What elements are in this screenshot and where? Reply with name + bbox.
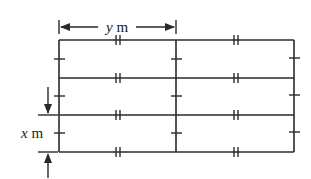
width-label: y m	[104, 19, 128, 35]
height-label: x m	[20, 125, 43, 141]
single-tick-marks	[54, 58, 300, 133]
fence-grid-diagram: y m x m	[0, 0, 311, 179]
